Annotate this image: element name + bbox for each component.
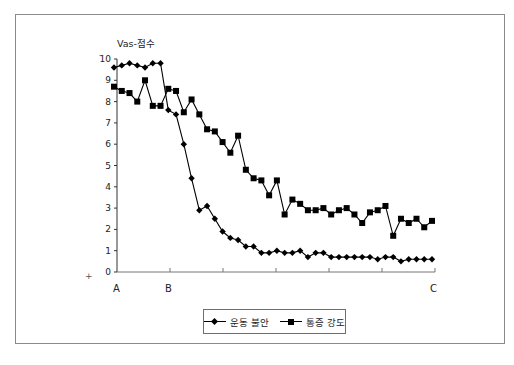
diamond-marker-icon <box>359 254 365 260</box>
square-marker-icon <box>235 133 241 139</box>
diamond-marker-icon <box>367 254 373 260</box>
square-marker-icon <box>390 233 396 239</box>
square-marker-icon <box>429 218 435 224</box>
square-marker-icon <box>305 207 311 213</box>
diamond-marker-icon <box>281 250 287 256</box>
square-marker-icon <box>119 88 125 94</box>
legend-label: 통증 강도 <box>306 315 345 329</box>
diamond-marker-icon <box>328 254 334 260</box>
y-tick-label: 7 <box>105 118 111 128</box>
diamond-marker-icon <box>134 62 140 68</box>
diamond-marker-icon <box>375 256 381 262</box>
square-marker-icon <box>111 84 117 90</box>
diamond-marker-icon <box>382 254 388 260</box>
square-marker-icon <box>142 77 148 83</box>
square-marker-icon <box>367 209 373 215</box>
diamond-marker-icon <box>406 256 412 262</box>
y-axis-title: Vas-점수 <box>117 38 155 49</box>
x-label-a: A <box>113 283 120 294</box>
y-tick-label: 0 <box>105 267 111 277</box>
y-tick-label: 8 <box>105 97 111 107</box>
diamond-marker-icon <box>188 175 194 181</box>
diamond-marker-icon <box>266 250 272 256</box>
diamond-marker-icon <box>157 60 163 66</box>
square-marker-icon <box>421 224 427 230</box>
square-marker-icon <box>320 205 326 211</box>
x-label-b: B <box>165 283 172 294</box>
diamond-marker-icon <box>274 248 280 254</box>
square-marker-icon <box>181 109 187 115</box>
diamond-marker-icon <box>421 256 427 262</box>
square-marker-icon <box>158 103 164 109</box>
square-marker-icon <box>413 216 419 222</box>
square-marker-icon <box>406 220 412 226</box>
square-marker-icon <box>134 99 140 105</box>
square-marker-icon <box>212 128 218 134</box>
axes: 012345678910 <box>100 54 435 277</box>
diamond-marker-icon <box>390 254 396 260</box>
square-marker-icon <box>150 103 156 109</box>
y-tick-label: 6 <box>105 139 111 149</box>
square-marker-icon <box>251 175 257 181</box>
diamond-marker-icon <box>413 256 419 262</box>
square-marker-icon <box>382 203 388 209</box>
diamond-marker-icon <box>204 317 226 327</box>
diamond-marker-icon <box>289 250 295 256</box>
x-label-c: C <box>430 283 437 294</box>
diamond-marker-icon <box>181 141 187 147</box>
diamond-marker-icon <box>351 254 357 260</box>
diamond-marker-icon <box>320 250 326 256</box>
square-marker-icon <box>258 177 264 183</box>
square-marker-icon <box>375 207 381 213</box>
y-tick-label: 5 <box>105 161 111 171</box>
diamond-marker-icon <box>204 203 210 209</box>
diamond-marker-icon <box>343 254 349 260</box>
square-marker-icon <box>359 220 365 226</box>
diamond-marker-icon <box>196 207 202 213</box>
legend-item-pain-intensity: 통증 강도 <box>280 315 345 329</box>
y-tick-label: 3 <box>105 203 111 213</box>
square-marker-icon <box>344 205 350 211</box>
diamond-marker-icon <box>212 216 218 222</box>
square-marker-icon <box>266 192 272 198</box>
legend-label: 운동 불안 <box>230 315 269 329</box>
square-marker-icon <box>204 126 210 132</box>
square-marker-icon <box>220 139 226 145</box>
square-marker-icon <box>280 317 302 327</box>
square-marker-icon <box>351 211 357 217</box>
diamond-marker-icon <box>111 64 117 70</box>
diamond-marker-icon <box>398 258 404 264</box>
square-marker-icon <box>196 111 202 117</box>
square-marker-icon <box>274 177 280 183</box>
diamond-marker-icon <box>150 60 156 66</box>
y-tick-label: 4 <box>105 182 111 192</box>
diamond-marker-icon <box>173 111 179 117</box>
y-tick-label: 9 <box>105 75 111 85</box>
square-marker-icon <box>328 211 334 217</box>
legend: 운동 불안 통증 강도 <box>203 309 346 334</box>
diamond-marker-icon <box>142 64 148 70</box>
series-line-motion-anxiety <box>114 63 432 261</box>
square-marker-icon <box>127 90 133 96</box>
diamond-marker-icon <box>165 107 171 113</box>
y-tick-label: 1 <box>105 246 111 256</box>
diamond-marker-icon <box>312 250 318 256</box>
square-marker-icon <box>227 150 233 156</box>
corner-mark-top: – <box>99 50 104 60</box>
square-marker-icon <box>289 197 295 203</box>
square-marker-icon <box>336 207 342 213</box>
square-marker-icon <box>297 201 303 207</box>
diamond-marker-icon <box>429 256 435 262</box>
corner-mark-bottom: + <box>85 271 93 281</box>
legend-item-motion-anxiety: 운동 불안 <box>204 315 269 329</box>
square-marker-icon <box>313 207 319 213</box>
series-group <box>111 60 435 264</box>
diamond-marker-icon <box>336 254 342 260</box>
diamond-marker-icon <box>126 60 132 66</box>
square-marker-icon <box>173 88 179 94</box>
y-tick-label: 2 <box>105 224 111 234</box>
square-marker-icon <box>243 167 249 173</box>
square-marker-icon <box>398 216 404 222</box>
square-marker-icon <box>282 211 288 217</box>
square-marker-icon <box>189 96 195 102</box>
